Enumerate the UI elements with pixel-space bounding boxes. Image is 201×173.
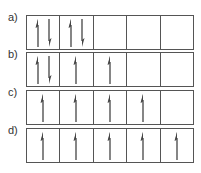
spin-up-arrow-icon bbox=[34, 19, 42, 47]
row-label: b) bbox=[8, 48, 18, 60]
orbital-box bbox=[60, 16, 93, 49]
spin-up-arrow-icon bbox=[72, 94, 80, 122]
orbital-box bbox=[60, 53, 93, 86]
orbital-box-group bbox=[26, 128, 194, 163]
orbital-box bbox=[161, 16, 193, 49]
orbital-box bbox=[94, 129, 127, 162]
spin-down-arrow-icon bbox=[78, 19, 86, 47]
orbital-box bbox=[60, 91, 93, 124]
spin-up-arrow-icon bbox=[173, 132, 181, 160]
spin-down-arrow-icon bbox=[45, 19, 53, 47]
orbital-box bbox=[27, 129, 60, 162]
orbital-box bbox=[127, 129, 160, 162]
row-label: a) bbox=[8, 11, 18, 23]
spin-up-arrow-icon bbox=[34, 56, 42, 84]
orbital-box bbox=[27, 53, 60, 86]
orbital-box bbox=[127, 16, 160, 49]
orbital-box bbox=[94, 91, 127, 124]
orbital-box bbox=[127, 53, 160, 86]
orbital-box bbox=[161, 129, 193, 162]
row-label: d) bbox=[8, 124, 18, 136]
orbital-box bbox=[94, 53, 127, 86]
orbital-box bbox=[161, 91, 193, 124]
orbital-box-group bbox=[26, 15, 194, 50]
spin-up-arrow-icon bbox=[139, 94, 147, 122]
spin-up-arrow-icon bbox=[39, 94, 47, 122]
spin-up-arrow-icon bbox=[72, 56, 80, 84]
orbital-box bbox=[127, 91, 160, 124]
spin-down-arrow-icon bbox=[45, 56, 53, 84]
orbital-box bbox=[27, 91, 60, 124]
spin-up-arrow-icon bbox=[67, 19, 75, 47]
orbital-box bbox=[60, 129, 93, 162]
row-label: c) bbox=[8, 86, 17, 98]
orbital-box bbox=[161, 53, 193, 86]
spin-up-arrow-icon bbox=[72, 132, 80, 160]
spin-up-arrow-icon bbox=[139, 132, 147, 160]
spin-up-arrow-icon bbox=[106, 132, 114, 160]
spin-up-arrow-icon bbox=[106, 56, 114, 84]
orbital-box-group bbox=[26, 52, 194, 87]
spin-up-arrow-icon bbox=[39, 132, 47, 160]
orbital-box bbox=[27, 16, 60, 49]
orbital-box-group bbox=[26, 90, 194, 125]
orbital-box bbox=[94, 16, 127, 49]
spin-up-arrow-icon bbox=[106, 94, 114, 122]
